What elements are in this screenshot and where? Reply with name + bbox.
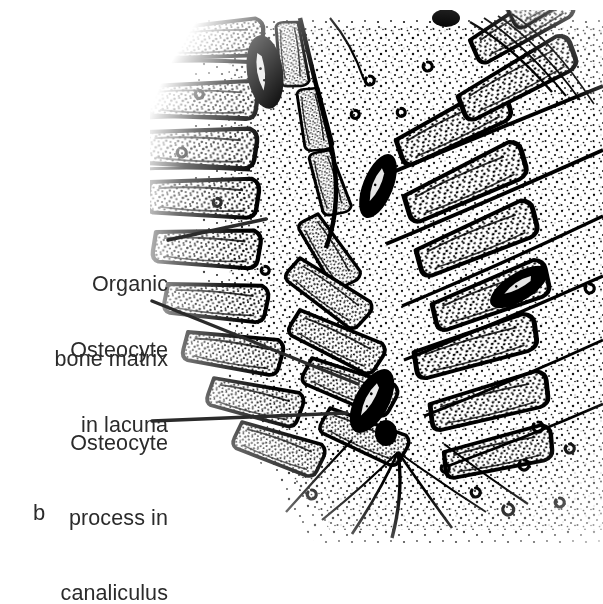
lacuna-top-partial xyxy=(432,9,460,27)
label-osteocyte-process-in-canaliculus: Osteocyte process in canaliculus xyxy=(61,381,168,604)
label-line: canaliculus xyxy=(61,581,168,604)
figure-panel-letter: b xyxy=(33,502,45,524)
label-line: Osteocyte xyxy=(61,431,168,456)
label-line: Osteocyte xyxy=(70,338,168,363)
lacuna-bottom xyxy=(375,420,397,446)
label-line: process in xyxy=(61,506,168,531)
